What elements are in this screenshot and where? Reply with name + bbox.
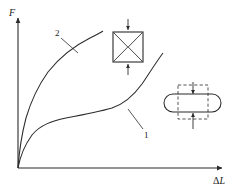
- curve-1-group: 1: [18, 53, 163, 168]
- shear-band-hourglass-left: [114, 33, 128, 61]
- curve-1-path: [18, 53, 163, 168]
- x-axis-label-var: L: [218, 175, 225, 186]
- deformed-stadium-shape: [164, 94, 221, 112]
- shear-band-hourglass-right: [128, 33, 142, 61]
- curve-2-label: 2: [55, 28, 60, 38]
- curve-2-path: [18, 31, 103, 168]
- figure-canvas: F ΔL 1 2: [0, 0, 242, 189]
- y-axis-label: F: [8, 7, 16, 18]
- curve-2-group: 2: [18, 28, 103, 168]
- curve-1-leader: [128, 109, 143, 129]
- inset-flattened-specimen: [164, 82, 221, 129]
- force-displacement-figure: F ΔL 1 2: [0, 0, 242, 189]
- curve-1-label: 1: [144, 130, 149, 140]
- axes-group: F ΔL: [8, 7, 225, 186]
- x-axis-label: ΔL: [213, 175, 225, 186]
- inset-compressed-square-specimen: [113, 19, 143, 75]
